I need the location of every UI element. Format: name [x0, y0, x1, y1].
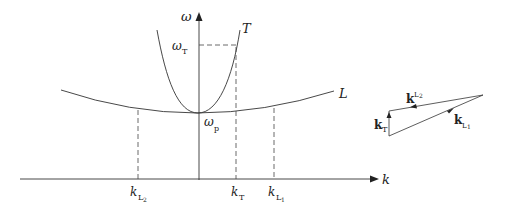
- svg-text:2: 2: [143, 196, 147, 203]
- curve-L: L: [61, 86, 348, 113]
- k-L1-vector-label: k L 1: [454, 113, 471, 130]
- svg-text:T: T: [239, 193, 245, 202]
- svg-text:ω: ω: [204, 115, 214, 129]
- omega-axis: ω: [181, 9, 203, 180]
- k-T-arrow-icon: [387, 112, 392, 118]
- k-axis-label: k: [382, 172, 390, 187]
- curve-T-label: T: [242, 21, 252, 36]
- k-T-tick-label: k T: [231, 185, 245, 202]
- k-axis-arrow-icon: [370, 176, 379, 183]
- omega-p-label: ω p: [204, 115, 219, 133]
- svg-text:1: 1: [467, 123, 471, 130]
- svg-text:k: k: [130, 185, 137, 199]
- svg-text:2: 2: [419, 92, 423, 99]
- omega-T-label: ω T: [172, 39, 188, 56]
- k-L2-vector-label: k L 2: [406, 91, 423, 106]
- svg-text:1: 1: [281, 196, 285, 203]
- svg-text:k: k: [231, 185, 238, 199]
- k-axis: k: [20, 172, 390, 187]
- curve-T: T: [157, 21, 252, 113]
- k-L2-tick-label: k L 2: [130, 185, 147, 203]
- omega-axis-label: ω: [181, 9, 192, 24]
- svg-text:ω: ω: [172, 39, 182, 53]
- vector-triangle: k L 2 k T k L 1: [374, 91, 483, 136]
- svg-text:k: k: [268, 185, 275, 199]
- omega-axis-arrow-icon: [196, 12, 203, 21]
- svg-text:p: p: [214, 124, 219, 133]
- curve-L-label: L: [338, 86, 348, 101]
- svg-text:T: T: [382, 125, 388, 134]
- svg-text:T: T: [182, 47, 188, 56]
- vector-k-L2: [389, 95, 483, 111]
- dispersion-diagram: k ω L T ω T ω p k L 2 k T: [0, 0, 506, 212]
- k-L1-tick-label: k L 1: [268, 185, 285, 203]
- k-T-vector-label: k T: [374, 118, 388, 134]
